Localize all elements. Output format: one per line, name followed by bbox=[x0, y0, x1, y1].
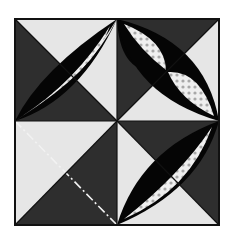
quilt-block-diagram bbox=[0, 0, 232, 238]
